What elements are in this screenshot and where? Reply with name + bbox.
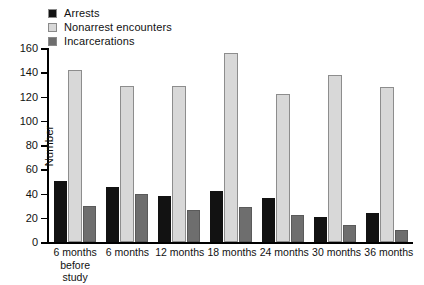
y-axis-tick-label: 20 <box>26 212 38 223</box>
legend-item-label: Arrests <box>64 7 100 19</box>
bar-nonarrest <box>68 70 82 242</box>
bar-incarcerations <box>239 207 253 242</box>
bar-incarcerations <box>395 230 409 242</box>
x-axis-label-line: 18 months <box>206 246 258 259</box>
y-axis-tick-label: 100 <box>20 115 38 126</box>
x-axis-label-line: 30 months <box>310 246 362 259</box>
legend-item: Arrests <box>48 6 268 20</box>
bar-arrests <box>106 187 120 242</box>
x-axis-label: 24 months <box>258 246 310 259</box>
y-axis-tick-label: 80 <box>26 140 38 151</box>
y-axis-tick <box>41 97 47 99</box>
x-axis-label-line: study <box>49 271 101 284</box>
bar-nonarrest <box>380 87 394 242</box>
x-axis-labels: 6 monthsbeforestudy6 months12 months18 m… <box>49 246 415 284</box>
bar-arrests <box>54 181 68 242</box>
legend-swatch-icon <box>48 9 57 18</box>
y-axis-tick-label: 60 <box>26 164 38 175</box>
bar-chart: ArrestsNonarrest encountersIncarceration… <box>0 0 424 285</box>
y-axis-tick <box>41 194 47 196</box>
y-axis-tick-label: 0 <box>32 237 38 248</box>
x-axis-label: 30 months <box>310 246 362 259</box>
legend-swatch-icon <box>48 37 57 46</box>
bar-incarcerations <box>343 225 357 242</box>
y-axis-tick-label: 140 <box>20 67 38 78</box>
x-axis-label: 6 months <box>101 246 153 259</box>
bar-group <box>49 48 101 242</box>
x-axis-label-line: 36 months <box>363 246 415 259</box>
bar-arrests <box>262 198 276 242</box>
x-axis-label-line: 6 months <box>49 246 101 259</box>
bar-group <box>361 48 413 242</box>
legend-item-label: Incarcerations <box>64 35 135 47</box>
x-axis-label: 12 months <box>154 246 206 259</box>
x-axis-label-line: 12 months <box>154 246 206 259</box>
bars-layer <box>49 48 413 242</box>
y-axis-tick <box>41 218 47 220</box>
bar-nonarrest <box>328 75 342 242</box>
legend-item-label: Nonarrest encounters <box>64 21 172 33</box>
bar-group <box>153 48 205 242</box>
bar-arrests <box>314 217 328 242</box>
y-axis-tick-label: 160 <box>20 43 38 54</box>
y-axis-tick <box>41 121 47 123</box>
bar-incarcerations <box>187 210 201 242</box>
bar-nonarrest <box>120 86 134 242</box>
bar-group <box>257 48 309 242</box>
legend-swatch-icon <box>48 23 57 32</box>
x-axis-label: 36 months <box>363 246 415 259</box>
bar-incarcerations <box>291 215 305 242</box>
x-axis-label: 6 monthsbeforestudy <box>49 246 101 284</box>
bar-group <box>309 48 361 242</box>
chart-legend: ArrestsNonarrest encountersIncarceration… <box>48 6 268 48</box>
y-axis-tick-label: 40 <box>26 188 38 199</box>
bar-arrests <box>158 196 172 242</box>
bar-group <box>205 48 257 242</box>
bar-nonarrest <box>224 53 238 242</box>
bar-arrests <box>210 191 224 242</box>
y-axis-tick <box>41 72 47 74</box>
x-axis-label: 18 months <box>206 246 258 259</box>
bar-incarcerations <box>83 206 97 242</box>
bar-arrests <box>366 213 380 242</box>
bar-nonarrest <box>276 94 290 242</box>
x-axis-label-line: before <box>49 259 101 272</box>
y-axis-tick <box>41 48 47 50</box>
y-axis-tick-label: 120 <box>20 91 38 102</box>
x-axis-line <box>47 242 413 244</box>
plot-area: 020406080100120140160 Number <box>47 48 413 244</box>
x-axis-label-line: 24 months <box>258 246 310 259</box>
legend-item: Nonarrest encounters <box>48 20 268 34</box>
y-axis-tick <box>41 169 47 171</box>
y-axis-tick <box>41 242 47 244</box>
x-axis-label-line: 6 months <box>101 246 153 259</box>
bar-incarcerations <box>135 194 149 243</box>
bar-nonarrest <box>172 86 186 242</box>
bar-group <box>101 48 153 242</box>
legend-item: Incarcerations <box>48 34 268 48</box>
